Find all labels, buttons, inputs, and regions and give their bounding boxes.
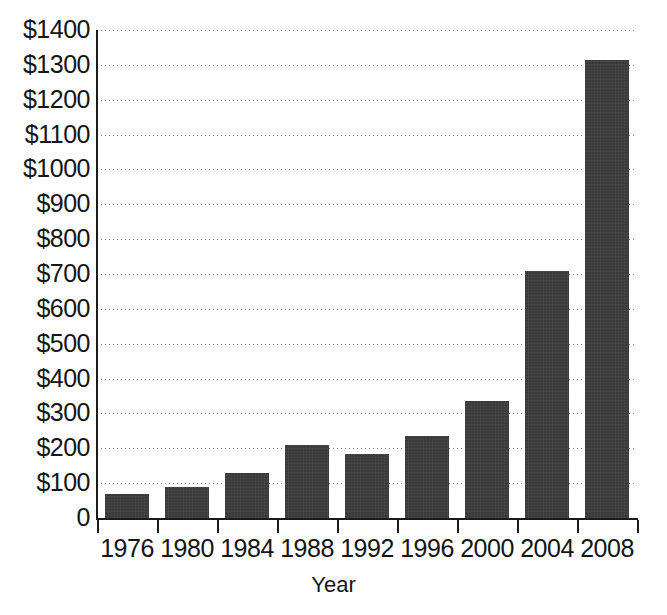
y-axis-tick-label: $400 bbox=[0, 366, 90, 391]
x-axis-tick bbox=[577, 520, 579, 533]
y-axis-tick-label: $1300 bbox=[0, 52, 90, 77]
y-axis-tick-label: $1400 bbox=[0, 17, 90, 42]
y-axis-tick-label: $100 bbox=[0, 470, 90, 495]
bar bbox=[465, 401, 509, 518]
y-axis-tick-label: $300 bbox=[0, 400, 90, 425]
bar-chart: 0$100$200$300$400$500$600$700$800$900$10… bbox=[0, 0, 667, 615]
y-axis-tick-label: $1200 bbox=[0, 87, 90, 112]
bar bbox=[405, 436, 449, 518]
bar bbox=[165, 487, 209, 518]
bar bbox=[345, 454, 389, 518]
y-axis-tick-label: $1100 bbox=[0, 122, 90, 147]
x-axis-tick bbox=[637, 520, 639, 533]
y-axis-tick-label: $500 bbox=[0, 331, 90, 356]
bar bbox=[105, 494, 149, 518]
y-axis-tick-label: $1000 bbox=[0, 156, 90, 181]
bar bbox=[225, 473, 269, 518]
x-axis-tick bbox=[97, 520, 99, 533]
y-axis-line bbox=[96, 30, 98, 519]
x-axis-tick bbox=[337, 520, 339, 533]
x-axis-tick-label: 2008 bbox=[572, 534, 642, 562]
bar bbox=[525, 271, 569, 518]
bar bbox=[585, 60, 629, 518]
bars-layer bbox=[97, 30, 637, 518]
bar bbox=[285, 445, 329, 518]
y-axis-tick-label: $800 bbox=[0, 226, 90, 251]
plot-area bbox=[97, 30, 637, 518]
x-axis-tick bbox=[157, 520, 159, 533]
x-axis-ticks bbox=[0, 520, 667, 534]
x-axis-tick bbox=[397, 520, 399, 533]
x-axis-tick-labels: 197619801984198819921996200020042008 bbox=[0, 534, 667, 568]
x-axis-tick bbox=[277, 520, 279, 533]
y-axis-tick-label: $900 bbox=[0, 191, 90, 216]
x-axis-tick bbox=[217, 520, 219, 533]
y-axis-tick-label: $600 bbox=[0, 296, 90, 321]
x-axis-tick bbox=[457, 520, 459, 533]
y-axis-tick-label: $700 bbox=[0, 261, 90, 286]
x-axis-title: Year bbox=[0, 572, 667, 598]
y-axis-tick-label: $200 bbox=[0, 435, 90, 460]
x-axis-tick bbox=[517, 520, 519, 533]
